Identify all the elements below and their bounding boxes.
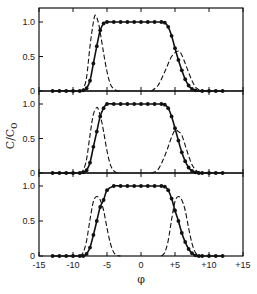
data-point-marker: [92, 145, 96, 149]
y-tick-label: 0: [30, 86, 35, 96]
data-point-marker: [95, 44, 99, 48]
data-point-marker: [190, 251, 194, 255]
data-point-marker: [177, 219, 181, 223]
dashed-component-curve: [80, 107, 121, 173]
data-point-marker: [177, 139, 181, 143]
data-point-marker: [153, 102, 157, 106]
data-point-marker: [98, 28, 102, 32]
y-tick-label: 1.0: [22, 99, 35, 109]
panels-group: 00.51.000.51.000.51.0: [22, 8, 243, 261]
data-point-marker: [183, 159, 187, 163]
data-point-marker: [119, 20, 123, 24]
data-point-marker: [146, 20, 150, 24]
data-point-marker: [163, 21, 167, 25]
data-point-marker: [183, 240, 187, 244]
data-point-marker: [170, 197, 174, 201]
data-point-marker: [92, 62, 96, 66]
data-point-marker: [180, 231, 184, 235]
data-point-marker: [102, 21, 106, 25]
data-point-marker: [102, 198, 106, 202]
data-point-marker: [163, 185, 167, 189]
data-point-marker: [190, 87, 194, 91]
data-point-marker: [119, 184, 123, 188]
data-point-marker: [139, 184, 143, 188]
y-axis-label-subscript: o: [7, 122, 20, 129]
data-point-marker: [95, 219, 99, 223]
x-tick-label: -15: [32, 260, 45, 270]
x-tick-label: +10: [201, 260, 216, 270]
y-tick-label: 1.0: [22, 181, 35, 191]
data-point-marker: [221, 254, 225, 258]
data-point-marker: [132, 102, 136, 106]
data-point-marker: [187, 166, 191, 170]
data-point-marker: [163, 103, 167, 107]
y-axis-label-main: C/C: [4, 129, 17, 150]
data-point-marker: [177, 58, 181, 62]
data-point-marker: [207, 254, 211, 258]
data-point-marker: [187, 247, 191, 251]
data-point-marker: [214, 254, 218, 258]
panel-middle: 00.51.0: [22, 91, 243, 178]
y-tick-label: 0.5: [22, 134, 35, 144]
data-point-marker: [166, 106, 170, 110]
data-point-marker: [95, 130, 99, 134]
x-tick-label: -10: [66, 260, 79, 270]
x-tick-label: +5: [170, 260, 180, 270]
data-point-marker: [166, 25, 170, 29]
data-point-marker: [71, 254, 75, 258]
x-tick-label: -5: [103, 260, 111, 270]
data-point-marker: [85, 252, 89, 256]
data-point-marker: [146, 102, 150, 106]
data-point-marker: [126, 184, 130, 188]
data-point-marker: [105, 102, 109, 106]
data-point-marker: [126, 102, 130, 106]
x-tick-label: 0: [138, 260, 143, 270]
data-point-marker: [160, 20, 164, 24]
dashed-component-curve: [161, 196, 202, 256]
y-tick-label: 0.5: [22, 52, 35, 62]
data-point-marker: [153, 184, 157, 188]
data-point-marker: [105, 188, 109, 192]
data-point-marker: [180, 68, 184, 72]
data-point-marker: [126, 20, 130, 24]
data-point-marker: [88, 161, 92, 165]
data-point-marker: [85, 86, 89, 90]
data-point-marker: [187, 84, 191, 88]
data-point-marker: [92, 233, 96, 237]
data-point-marker: [183, 77, 187, 81]
data-point-marker: [160, 184, 164, 188]
y-tick-label: 0.5: [22, 216, 35, 226]
chart-figure: 00.51.000.51.000.51.0 -15-10-50+5+10+15 …: [0, 0, 257, 294]
data-point-marker: [119, 102, 123, 106]
solid-total-curve: [53, 22, 223, 91]
data-point-marker: [88, 246, 92, 250]
data-point-marker: [166, 188, 170, 192]
data-point-marker: [64, 254, 68, 258]
data-point-marker: [58, 254, 62, 258]
data-point-marker: [132, 20, 136, 24]
data-point-marker: [102, 106, 106, 110]
x-axis-label: φ: [137, 273, 145, 286]
data-point-marker: [85, 168, 89, 172]
data-point-marker: [88, 79, 92, 83]
solid-total-curve: [53, 186, 223, 256]
data-point-marker: [112, 20, 116, 24]
data-point-marker: [132, 184, 136, 188]
data-point-marker: [139, 20, 143, 24]
data-point-marker: [105, 20, 109, 24]
y-tick-label: 0: [30, 168, 35, 178]
data-point-marker: [98, 205, 102, 209]
data-point-marker: [170, 34, 174, 38]
data-point-marker: [153, 20, 157, 24]
x-axis-ticks: -15-10-50+5+10+15: [32, 260, 250, 270]
panel-bottom: 00.51.0: [22, 173, 243, 261]
data-point-marker: [160, 102, 164, 106]
data-point-marker: [173, 126, 177, 130]
x-tick-label: +15: [235, 260, 250, 270]
data-point-marker: [170, 115, 174, 119]
y-axis-label: C/C o: [4, 122, 20, 149]
data-point-marker: [180, 150, 184, 154]
data-point-marker: [146, 184, 150, 188]
y-tick-label: 1.0: [22, 17, 35, 27]
data-point-marker: [173, 46, 177, 50]
